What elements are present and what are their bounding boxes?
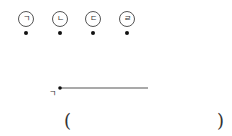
point-label: ㄱ (49, 87, 56, 98)
answer-close-paren: ) (217, 110, 224, 131)
start-point (58, 86, 62, 90)
answer-blank[interactable] (74, 112, 214, 130)
answer-open-paren: ( (64, 110, 71, 131)
